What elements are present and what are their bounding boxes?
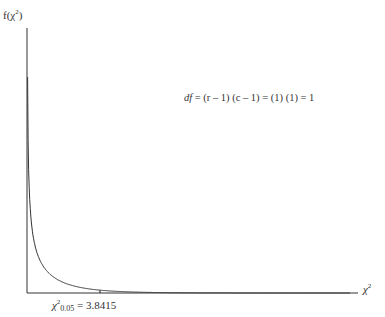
critical-value-label: χ20.05 = 3.8415 [52,298,116,313]
x-axis-label: χ2 [363,282,371,295]
df-annotation: df = (r – 1) (c – 1) = (1) (1) = 1 [184,92,314,103]
density-curve [28,77,350,293]
y-axis-label: f(χ2) [3,8,22,21]
chart-canvas [0,0,385,317]
